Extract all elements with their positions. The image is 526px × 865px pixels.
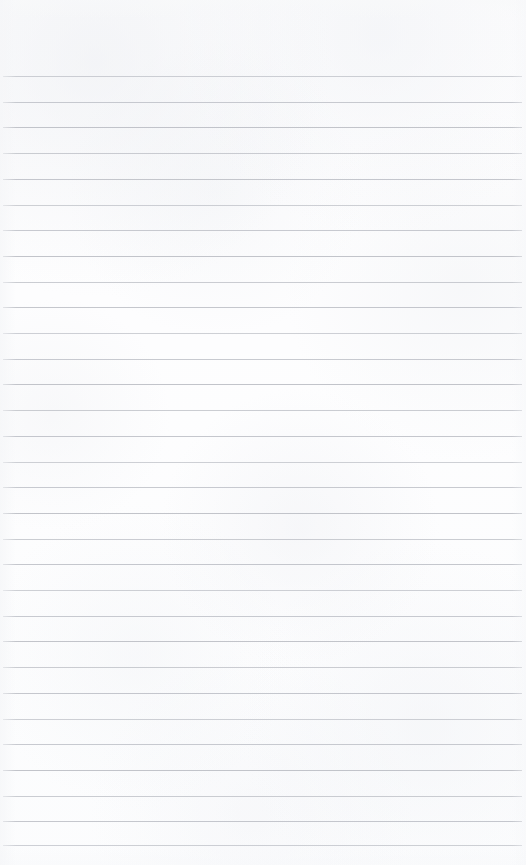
page-text-content[interactable] [0, 0, 526, 865]
notebook-page [0, 0, 526, 865]
